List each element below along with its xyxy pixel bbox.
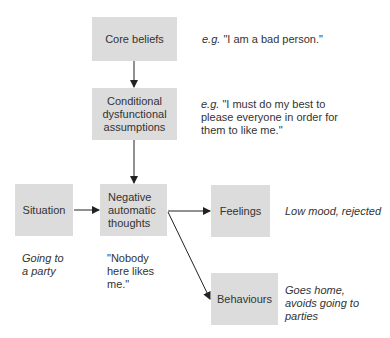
node-core-beliefs: Core beliefs: [92, 17, 177, 61]
note-situation: Going to a party: [22, 252, 64, 278]
note-negative-thoughts: "Nobody here likes me.": [107, 252, 154, 291]
node-conditional-assumptions: Conditional dysfunctional assumptions: [92, 88, 177, 140]
node-label: Core beliefs: [105, 33, 164, 46]
note-conditional-assumptions: e.g. "I must do my best to please everyo…: [201, 98, 338, 137]
node-negative-thoughts: Negative automatic thoughts: [100, 184, 167, 236]
node-feelings: Feelings: [211, 185, 270, 237]
node-behaviours: Behaviours: [211, 273, 278, 325]
note-feelings: Low mood, rejected: [285, 205, 381, 218]
note-behaviours: Goes home, avoids going to parties: [285, 284, 359, 323]
node-situation: Situation: [15, 184, 73, 236]
arrow-negative-to-behaviours: [168, 212, 210, 299]
note-core-beliefs: e.g. "I am a bad person.": [202, 33, 323, 46]
